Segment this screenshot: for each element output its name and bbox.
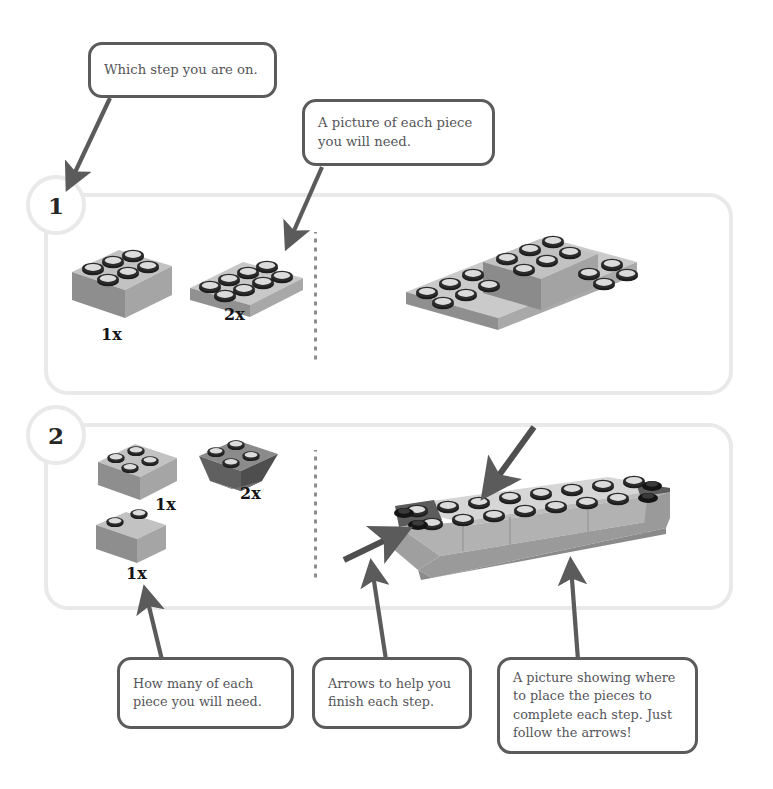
callout-placement[interactable]: A picture showing where to place the pie… — [497, 657, 698, 754]
qty-label-step2-slope: 2x — [240, 484, 261, 503]
step-number-1: 1 — [48, 192, 64, 219]
part-brick-2x3 — [72, 250, 172, 318]
callout-arrows-help[interactable]: Arrows to help you finish each step. — [312, 657, 472, 729]
step-number-2: 2 — [48, 422, 64, 449]
part-brick-2x2 — [98, 444, 177, 500]
part-brick-1x2 — [96, 509, 166, 563]
callout-piece-picture-text: A picture of each piece you will need. — [318, 114, 479, 151]
callout-arrows-help-text: Arrows to help you finish each step. — [328, 675, 456, 711]
callout-placement-text: A picture showing where to place the pie… — [513, 669, 682, 742]
part-plate-2x4 — [190, 261, 303, 317]
step-badge-2: 2 — [26, 405, 86, 465]
qty-label-step1-plate-2x4: 2x — [224, 305, 245, 324]
qty-label-step1-brick-2x3: 1x — [101, 325, 122, 344]
step-badge-1: 1 — [26, 175, 86, 235]
callout-piece-picture[interactable]: A picture of each piece you will need. — [302, 99, 495, 166]
part-slope-inverted-2x2 — [199, 440, 278, 491]
callout-how-many-text: How many of each piece you will need. — [133, 675, 278, 711]
callout-which-step-text: Which step you are on. — [104, 61, 258, 80]
instruction-legend-canvas: 1 2 — [0, 0, 773, 789]
callout-which-step[interactable]: Which step you are on. — [88, 42, 277, 98]
assembly-step-1 — [406, 236, 638, 330]
callout-how-many[interactable]: How many of each piece you will need. — [117, 657, 294, 729]
assembly-step-2 — [392, 476, 670, 580]
qty-label-step2-brick-2x2: 1x — [155, 495, 176, 514]
qty-label-step2-brick-1x2: 1x — [126, 564, 147, 583]
